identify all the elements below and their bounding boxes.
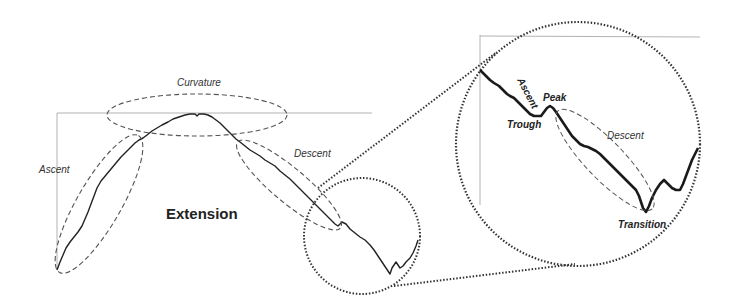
trough-label: Trough	[507, 119, 541, 130]
magnified-descent-label: Descent	[607, 130, 645, 141]
magnified-ascent-label: Ascent	[515, 75, 541, 111]
curvature-ellipse	[107, 94, 287, 136]
zoom-connector-lines	[318, 52, 575, 286]
magnified-curve	[480, 70, 698, 212]
ascent-ellipse	[40, 125, 157, 284]
transition-label: Transition	[618, 219, 666, 230]
descent-label: Descent	[294, 148, 332, 159]
left-dashed-ellipses	[40, 94, 351, 283]
extension-diagram: Curvature Ascent Descent Extension Ascen…	[0, 0, 737, 308]
extension-title: Extension	[166, 205, 238, 222]
left-frame	[57, 113, 372, 270]
curvature-label: Curvature	[177, 77, 221, 88]
zoom-source-circle	[304, 178, 420, 294]
extension-curve	[57, 114, 418, 274]
peak-label: Peak	[543, 92, 567, 103]
ascent-label: Ascent	[38, 164, 71, 175]
